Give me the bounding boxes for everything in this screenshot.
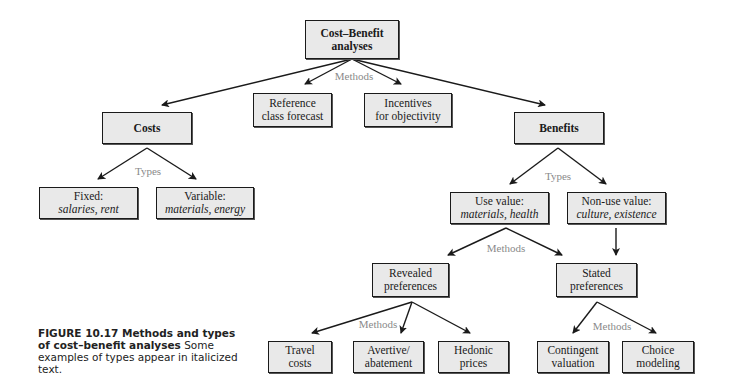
node-label: Avertive/ [367,344,410,357]
node-label: Costs [134,122,161,135]
node-cost-benefit-analyses: Cost–Benefit analyses [305,20,399,59]
node-choice-modeling: Choice modeling [622,341,694,373]
node-avertive-abatement: Avertive/ abatement [353,341,424,373]
node-use-value: Use value: materials, health [450,192,549,224]
node-label: Stated [582,267,611,280]
node-example: materials, health [461,208,539,221]
node-contingent-valuation: Contingent valuation [537,341,609,373]
node-label: preferences [384,280,437,293]
node-fixed-costs: Fixed: salaries, rent [39,187,138,219]
node-stated-preferences: Stated preferences [556,263,637,297]
node-label: Benefits [539,122,579,135]
node-travel-costs: Travel costs [268,341,332,373]
node-revealed-preferences: Revealed preferences [372,263,449,297]
node-label: analyses [332,40,373,53]
node-reference-class-forecast: Reference class forecast [253,93,332,127]
node-label: Variable: [184,190,226,203]
node-benefits: Benefits [514,112,604,144]
node-label: Revealed [389,267,432,280]
edge-label-use-methods: Methods [487,242,526,254]
node-example: salaries, rent [58,203,118,216]
node-costs: Costs [102,112,192,144]
node-label: prices [460,357,487,370]
edge-label-stated-methods: Methods [593,320,632,332]
node-label: class forecast [262,110,324,123]
node-variable-costs: Variable: materials, energy [156,187,254,219]
node-hedonic-prices: Hedonic prices [438,341,509,373]
node-label: modeling [636,357,679,370]
node-label: Cost–Benefit [320,27,383,40]
edge-label-root-methods: Methods [335,70,374,82]
edge-label-costs-types: Types [135,165,161,177]
edge-label-benefits-types: Types [545,170,571,182]
node-label: Fixed: [74,190,103,203]
node-label: abatement [365,357,412,370]
node-label: costs [289,357,312,370]
node-label: Use value: [475,195,524,208]
node-label: for objectivity [375,110,440,123]
node-non-use-value: Non-use value: culture, existence [567,192,666,224]
node-label: preferences [570,280,623,293]
figure-caption: FIGURE 10.17 Methods and types of cost–b… [38,327,248,375]
node-incentives-for-objectivity: Incentives for objectivity [364,93,452,127]
node-label: Travel [285,344,315,357]
node-example: materials, energy [165,203,245,216]
node-label: Reference [269,97,316,110]
node-label: Hedonic [454,344,493,357]
node-label: Non-use value: [582,195,652,208]
node-label: Incentives [384,97,431,110]
node-label: Contingent [547,344,598,357]
node-example: culture, existence [576,208,656,221]
edge-label-revealed-methods: Methods [359,318,398,330]
node-label: valuation [552,357,595,370]
node-label: Choice [642,344,675,357]
